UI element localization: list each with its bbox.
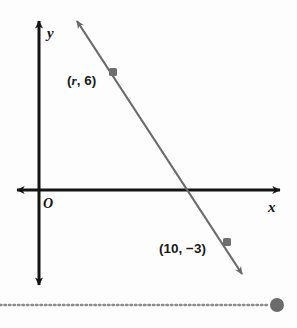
point-label-r-6: (r, 6): [67, 73, 96, 88]
point-marker-10-neg3: [223, 238, 231, 246]
coordinate-plane-svg: y x O (r, 6) (10, −3): [0, 0, 297, 328]
page-edge-end-dot: [270, 298, 284, 312]
origin-label: O: [43, 196, 53, 211]
y-axis-label: y: [45, 25, 54, 41]
figure-background: [0, 0, 297, 328]
x-axis-label: x: [267, 199, 276, 215]
figure-root: y x O (r, 6) (10, −3): [0, 0, 297, 328]
point-marker-r-6: [109, 68, 117, 76]
point-label-10-neg3: (10, −3): [159, 241, 206, 256]
